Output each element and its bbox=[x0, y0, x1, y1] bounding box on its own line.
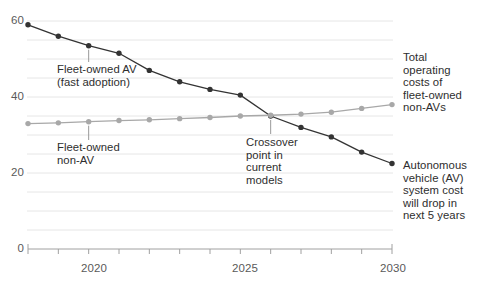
data-point-marker bbox=[389, 102, 394, 107]
annotation-av-system-cost: Autonomous vehicle (AV) system cost will… bbox=[403, 159, 467, 222]
data-point-marker bbox=[86, 119, 91, 124]
data-point-marker bbox=[389, 161, 394, 166]
gridlines-group bbox=[27, 21, 393, 230]
x-tick-label-2020: 2020 bbox=[71, 262, 117, 274]
data-point-marker bbox=[207, 115, 212, 120]
data-point-marker bbox=[238, 113, 243, 118]
annotation-crossover-point: Crossover point in current models bbox=[246, 136, 298, 186]
data-point-marker bbox=[298, 111, 303, 116]
data-point-marker bbox=[25, 22, 30, 27]
data-point-marker bbox=[86, 43, 91, 48]
x-tick-label-2025: 2025 bbox=[222, 262, 268, 274]
data-point-marker bbox=[238, 92, 243, 97]
y-tick-label-60: 60 bbox=[2, 14, 24, 26]
data-point-marker bbox=[147, 68, 152, 73]
data-point-marker bbox=[329, 110, 334, 115]
chart-container: 60 40 20 0 2020 2025 2030 Fleet-owned AV… bbox=[0, 0, 479, 287]
x-axis bbox=[28, 244, 392, 254]
y-tick-label-40: 40 bbox=[2, 90, 24, 102]
data-point-marker bbox=[56, 34, 61, 39]
data-point-marker bbox=[207, 87, 212, 92]
annotation-fleet-owned-non-av: Fleet-owned non-AV bbox=[57, 141, 120, 166]
y-tick-label-0: 0 bbox=[2, 242, 24, 254]
data-point-marker bbox=[25, 121, 30, 126]
data-point-marker bbox=[147, 117, 152, 122]
data-point-marker bbox=[177, 79, 182, 84]
data-point-marker bbox=[329, 134, 334, 139]
data-point-marker bbox=[116, 118, 121, 123]
data-point-marker bbox=[359, 106, 364, 111]
data-point-marker bbox=[359, 149, 364, 154]
data-point-marker bbox=[268, 113, 273, 118]
series-line bbox=[28, 105, 392, 124]
data-point-marker bbox=[56, 120, 61, 125]
y-tick-label-20: 20 bbox=[2, 166, 24, 178]
data-point-marker bbox=[177, 116, 182, 121]
data-point-marker bbox=[116, 51, 121, 56]
annotation-fleet-owned-av: Fleet-owned AV (fast adoption) bbox=[57, 63, 137, 88]
annotation-total-operating-costs: Total operating costs of fleet-owned non… bbox=[403, 51, 462, 114]
data-point-marker bbox=[298, 125, 303, 130]
x-tick-label-2030: 2030 bbox=[370, 262, 416, 274]
